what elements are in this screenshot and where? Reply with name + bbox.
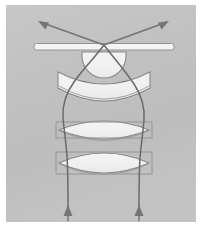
optical-ray-diagram: [0, 0, 204, 231]
diagram-canvas: [0, 0, 204, 231]
scan-grain-overlay: [6, 5, 196, 222]
figure-root: Microscope objective lens cross-section …: [0, 0, 204, 231]
